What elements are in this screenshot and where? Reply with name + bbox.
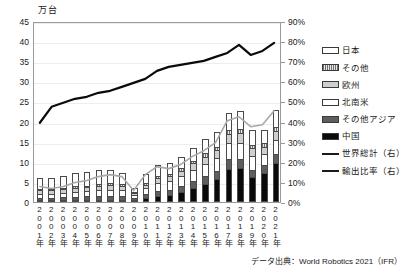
legend-swatch-china-icon [322,133,339,140]
x-axis-label: 2009年 [129,205,137,247]
line-exportline [40,43,274,123]
y-right-tickmark [281,102,285,103]
x-axis-label: 2003年 [59,205,67,247]
legend-swatch-europe-icon [322,81,339,88]
x-axis-label: 2007年 [106,205,114,247]
x-axis-label: 2011年 [153,205,161,247]
legend-item-china[interactable]: 中国 [322,128,406,145]
plot-area [33,22,281,203]
legend-item-otherasia[interactable]: その他アジア [322,111,406,128]
y-right-tick: 0% [288,199,318,208]
x-axis-label: 2010年 [141,205,149,247]
line-worldline [40,111,274,191]
y-right-tick: 70% [288,58,318,67]
legend-item-japan[interactable]: 日本 [322,42,406,59]
line-series-layer [34,23,280,203]
y-right-tickmark [281,203,285,204]
x-axis-label: 2014年 [188,205,196,247]
y-right-tickmark [281,183,285,184]
x-axis-label: 2020年 [259,205,267,247]
y-right-tick: 80% [288,38,318,47]
legend-item-americas[interactable]: 北南米 [322,94,406,111]
y-left-tick: 15 [4,138,29,147]
y-left-tick: 35 [4,58,29,67]
y-left-tick: 40 [4,38,29,47]
y-left-tick: 0 [4,199,29,208]
y-right-tickmark [281,163,285,164]
robot-shipment-chart: 万台 051015202530354045 0%10%20%30%40%50%6… [0,0,406,269]
y-left-tick: 30 [4,78,29,87]
legend-label: その他 [342,64,369,73]
chart-legend: 日本その他欧州北南米その他アジア中国世界総計（右）輸出比率（右） [322,42,406,180]
y-right-tickmark [281,143,285,144]
legend-swatch-exportline-icon [322,170,339,172]
y-right-tick: 10% [288,179,318,188]
x-axis-label: 2017年 [224,205,232,247]
y-right-tick: 60% [288,78,318,87]
legend-swatch-americas-icon [322,99,339,106]
y-right-tickmark [281,82,285,83]
x-axis-label: 2016年 [212,205,220,247]
y-right-tickmark [281,22,285,23]
legend-item-worldline[interactable]: 世界総計（右） [322,145,406,162]
legend-label: 中国 [342,132,360,141]
y-right-tick: 40% [288,118,318,127]
x-axis-label: 2012年 [165,205,173,247]
y-right-tickmark [281,62,285,63]
x-axis-label: 2006年 [94,205,102,247]
y-axis-unit-label: 万台 [38,3,57,16]
x-axis-label: 2021年 [271,205,279,247]
legend-item-other[interactable]: その他 [322,59,406,76]
legend-swatch-japan-icon [322,47,339,54]
legend-label: 日本 [342,46,360,55]
y-right-tick: 90% [288,18,318,27]
y-right-tick: 50% [288,98,318,107]
x-axis-label: 2018年 [236,205,244,247]
legend-item-europe[interactable]: 欧州 [322,76,406,93]
x-axis-label: 2004年 [70,205,78,247]
legend-swatch-other-icon [322,64,339,71]
legend-swatch-worldline-icon [322,153,339,155]
y-left-tick: 5 [4,179,29,188]
y-right-tick: 30% [288,138,318,147]
x-axis-label: 2015年 [200,205,208,247]
x-axis-label: 2002年 [47,205,55,247]
x-axis-label: 2005年 [82,205,90,247]
legend-item-exportline[interactable]: 輸出比率（右） [322,162,406,179]
x-axis-year-labels: 2001年2002年2003年2004年2005年2006年2007年2008年… [33,205,281,253]
x-axis-label: 2008年 [118,205,126,247]
x-axis-label: 2019年 [247,205,255,247]
y-left-tick: 45 [4,18,29,27]
legend-swatch-otherasia-icon [322,116,339,123]
x-axis-label: 2001年 [35,205,43,247]
y-right-tickmark [281,123,285,124]
legend-label: その他アジア [342,115,396,124]
legend-label: 欧州 [342,81,360,90]
y-left-tick: 20 [4,118,29,127]
legend-label: 輸出比率（右） [342,167,405,176]
legend-label: 世界総計（右） [342,149,405,158]
y-left-tick: 25 [4,98,29,107]
legend-label: 北南米 [342,98,369,107]
x-axis-label: 2013年 [177,205,185,247]
source-note: データ出典：World Robotics 2021（IFR） [0,255,402,266]
y-right-tickmark [281,42,285,43]
y-right-tick: 20% [288,159,318,168]
y-left-tick: 10 [4,159,29,168]
